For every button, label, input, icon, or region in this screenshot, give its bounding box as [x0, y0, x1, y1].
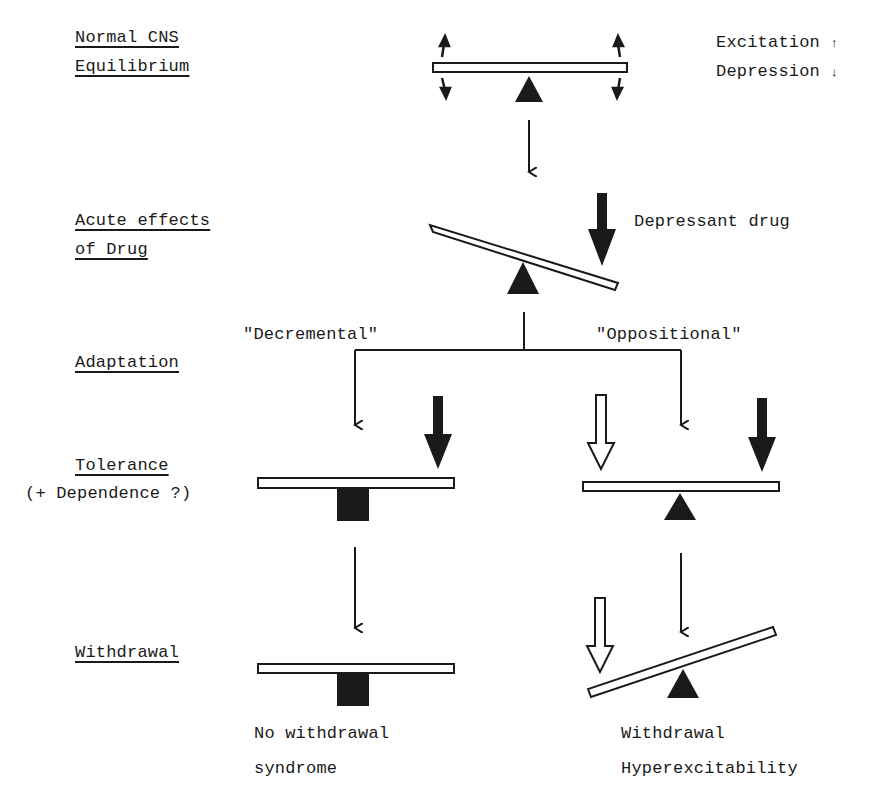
fixed-block-support-icon	[337, 489, 369, 521]
drug-pressure-arrow-icon	[748, 398, 776, 472]
seesaw-beam	[433, 63, 627, 72]
drug-pressure-arrow-icon	[424, 396, 452, 469]
seesaw-acute	[430, 193, 618, 294]
fulcrum-triangle-icon	[664, 493, 696, 520]
diagram-canvas	[0, 0, 884, 804]
fixed-block-support-icon	[337, 674, 369, 706]
counter-adaptation-arrow-icon	[587, 598, 613, 672]
fulcrum-triangle-icon	[667, 669, 699, 698]
seesaw-normal	[433, 36, 627, 102]
seesaw-withdrawal-decremental	[258, 664, 454, 706]
fulcrum-triangle-icon	[515, 76, 543, 102]
seesaw-beam	[258, 664, 454, 673]
seesaw-beam	[583, 482, 779, 491]
branch-connector	[355, 312, 681, 425]
counter-adaptation-arrow-icon	[588, 395, 614, 469]
drug-pressure-arrow-icon	[588, 193, 616, 266]
seesaw-beam	[258, 478, 454, 488]
fulcrum-triangle-icon	[507, 262, 539, 294]
